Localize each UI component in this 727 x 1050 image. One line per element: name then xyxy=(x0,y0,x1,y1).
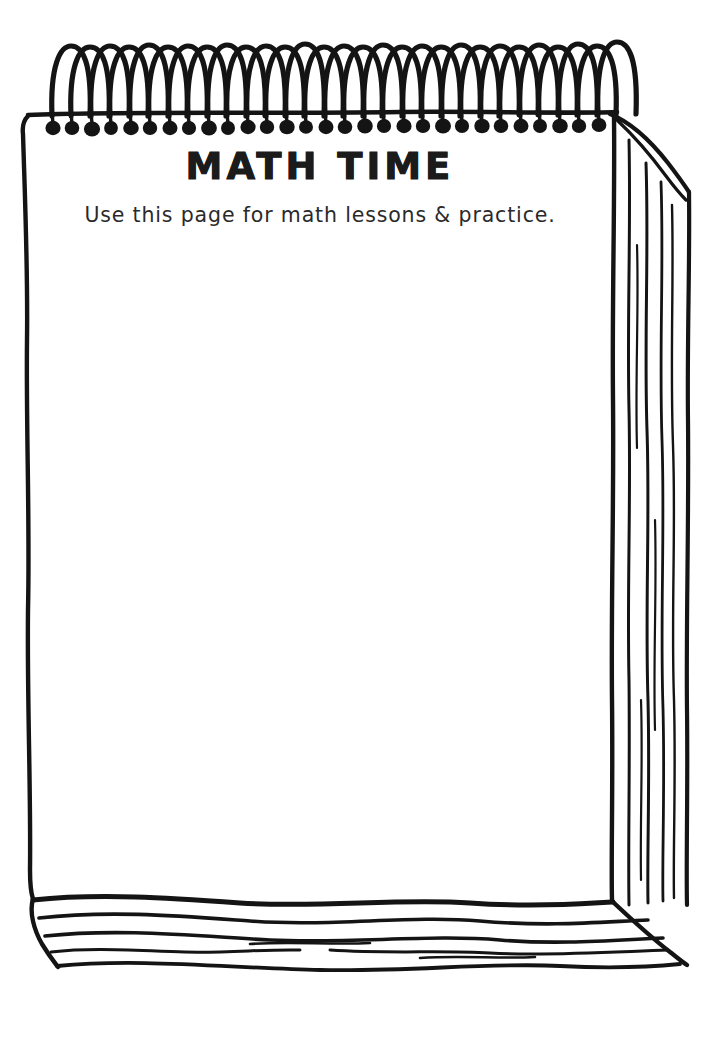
spiral-loops xyxy=(52,42,637,116)
notepad-drawing xyxy=(0,0,727,1050)
page-stack-bottom xyxy=(32,897,687,971)
page-right-edge xyxy=(612,116,614,900)
notepad-illustration: MATH TIME Use this page for math lessons… xyxy=(0,0,727,1050)
page-body-fill xyxy=(30,118,614,902)
binding-top-bar xyxy=(28,112,617,115)
page-stack-right xyxy=(610,114,689,905)
